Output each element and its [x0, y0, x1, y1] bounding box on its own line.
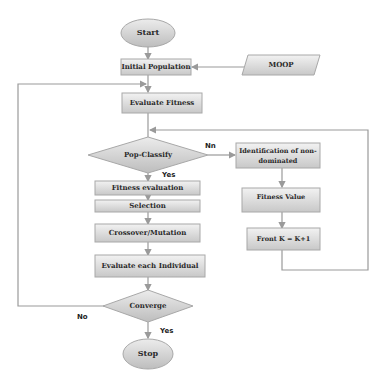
fitness-value-node: Fitness Value — [242, 188, 320, 212]
initial-population-label: Initial Population — [121, 62, 190, 71]
start-label: Start — [137, 27, 160, 37]
converge-label: Converge — [130, 301, 167, 310]
evaluate-fitness-label: Evaluate Fitness — [130, 98, 195, 107]
fitness-value-label: Fitness Value — [257, 193, 306, 201]
selection-label: Selection — [129, 201, 166, 210]
stop-node: Stop — [123, 339, 173, 369]
identification-label-line2: dominated — [259, 157, 298, 165]
converge-decision: Converge — [103, 290, 193, 322]
moop-label: MOOP — [268, 60, 294, 69]
crossover-mutation-label: Crossover/Mutation — [109, 228, 187, 237]
front-k-label: Front K = K+1 — [257, 235, 311, 243]
evaluate-each-individual-label: Evaluate each Individual — [102, 261, 199, 270]
identification-node: Identification of non- dominated — [236, 143, 320, 168]
selection-node: Selection — [95, 200, 200, 212]
evaluate-fitness-node: Evaluate Fitness — [122, 93, 202, 113]
front-k-node: Front K = K+1 — [247, 228, 320, 250]
fitness-evaluation-node: Fitness evaluation — [95, 181, 200, 195]
pop-classify-no-label: Nn — [205, 142, 216, 150]
crossover-mutation-node: Crossover/Mutation — [95, 224, 200, 242]
identification-label-line1: Identification of non- — [239, 147, 317, 155]
converge-no-label: No — [77, 313, 88, 321]
initial-population-node: Initial Population — [121, 59, 191, 75]
pop-classify-label: Pop-Classify — [124, 150, 173, 159]
evaluate-each-individual-node: Evaluate each Individual — [95, 255, 205, 277]
flowchart: Start Initial Population MOOP Evaluate F… — [0, 0, 384, 384]
moop-node: MOOP — [242, 55, 320, 75]
fitness-evaluation-label: Fitness evaluation — [112, 183, 184, 192]
converge-yes-label: Yes — [159, 327, 173, 335]
stop-label: Stop — [138, 348, 159, 358]
start-node: Start — [121, 19, 175, 47]
pop-classify-decision: Pop-Classify — [88, 137, 208, 173]
pop-classify-yes-label: Yes — [161, 171, 175, 179]
